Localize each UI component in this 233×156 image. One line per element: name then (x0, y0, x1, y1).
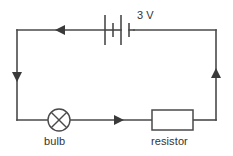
circuit-diagram-canvas: 3 V bulb resistor (0, 0, 233, 156)
battery-symbol (105, 15, 134, 45)
top-wire-arrow-left-icon (55, 25, 65, 35)
left-wire-arrow-down-icon (12, 72, 22, 82)
bulb-label: bulb (44, 135, 65, 147)
circuit-schematic-svg (0, 0, 233, 156)
bulb-symbol (48, 109, 70, 131)
resistor-rectangle-outline (152, 110, 193, 130)
battery-voltage-label: 3 V (137, 9, 154, 21)
bottom-wire-arrow-right-icon (114, 115, 124, 125)
resistor-label: resistor (151, 135, 188, 147)
right-wire-arrow-up-icon (211, 68, 221, 78)
